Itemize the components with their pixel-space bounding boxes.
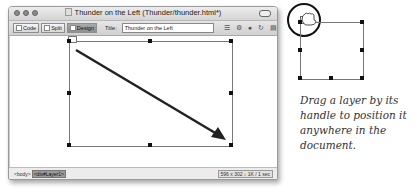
document-icon [65,8,72,16]
status-bar: <body> <div#Layer1> 596 x 302 ↓ 1K / 1 s… [9,167,277,179]
illustration-handle-tl [298,20,302,24]
toolbar-toggle-button[interactable] [259,10,271,17]
caption-text: Drag a layer by its handle to position i… [300,93,418,153]
page-title-input[interactable]: Thunder on the Left [122,23,214,33]
file-management-icon[interactable]: ☰ [224,24,230,32]
window-title: Thunder on the Left (Thunder/thunder.htm… [9,8,277,17]
title-bar[interactable]: Thunder on the Left (Thunder/thunder.htm… [9,7,277,21]
window-title-text: Thunder on the Left (Thunder/thunder.htm… [75,8,222,17]
illustration-handle-ml [298,48,302,52]
design-view-button[interactable]: Design [67,23,97,33]
illustration-layer-box [300,22,364,80]
dreamweaver-document-window: Thunder on the Left (Thunder/thunder.htm… [8,6,278,180]
split-view-icon [44,25,50,31]
illustration-handle-br [360,76,364,80]
refresh-icon[interactable]: ↻ [258,24,264,32]
window-size-indicator[interactable]: 596 x 302 ↓ 1K / 1 sec [218,170,273,178]
drag-direction-arrow-icon [10,36,278,167]
grabbing-hand-icon [299,11,319,27]
preview-icon[interactable]: ⚙ [236,24,242,32]
code-view-button[interactable]: Code [13,23,39,33]
view-options-icon[interactable]: ▤ [270,24,277,32]
split-view-label: Split [51,25,62,31]
illustration-handle-bm [329,76,333,80]
design-view-label: Design [77,25,94,31]
design-canvas[interactable] [9,36,277,167]
tag-selector-layer[interactable]: <div#Layer1> [32,170,66,178]
illustration-handle-bl [298,76,302,80]
document-toolbar: Code Split Design Title: Thunder on the … [9,21,277,36]
toolbar-icons: ☰ ⚙ ● ↻ ▤ [224,24,277,32]
code-view-label: Code [23,25,36,31]
tag-selector-body[interactable]: <body> [13,171,32,177]
design-view-icon [70,25,76,31]
split-view-button[interactable]: Split [41,23,65,33]
code-view-icon [16,25,22,31]
globe-check-icon[interactable]: ● [248,24,252,32]
illustration-handle-mr [360,48,364,52]
title-label: Title: [105,25,117,31]
illustration-handle-tr [360,20,364,24]
